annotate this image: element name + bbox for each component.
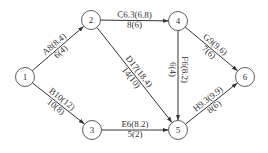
edge-label-activity: F6(8.2) [180,56,190,83]
network-diagram: 123456 A8(8.4)6(4)B10(12)10(8)C6.3(6.8)8… [0,0,268,153]
edge-label-duration: 8(6) [127,19,142,29]
node-3: 3 [83,121,102,140]
node-6: 6 [236,68,255,87]
edge-label-activity: E6(8.2) [121,119,148,129]
edge-label-duration: 6(4) [168,62,178,77]
node-label: 2 [89,15,94,25]
node-5: 5 [169,121,188,140]
node-label: 1 [23,72,28,82]
node-1: 1 [16,68,35,87]
node-label: 3 [90,125,95,135]
node-label: 6 [243,72,248,82]
node-2: 2 [82,11,101,30]
node-label: 5 [176,125,181,135]
edge-label-duration: 5(2) [128,129,143,139]
node-label: 4 [176,16,181,26]
node-4: 4 [169,12,188,31]
edge-label-activity: C6.3(6.8) [117,9,152,19]
